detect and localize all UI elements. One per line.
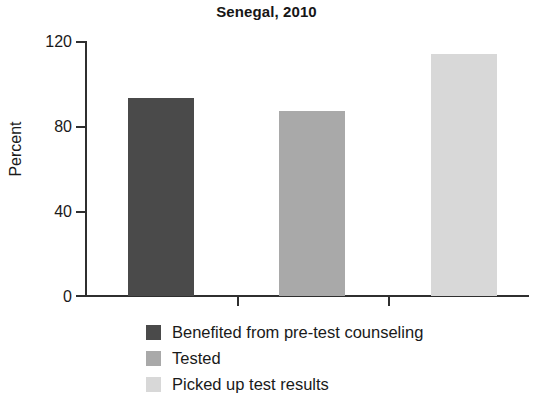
y-tick-label-40: 40 <box>14 203 72 221</box>
legend-item-benefited: Benefited from pre-test counseling <box>146 319 526 345</box>
legend-swatch-benefited <box>146 325 161 340</box>
legend-item-picked-up: Picked up test results <box>146 371 526 397</box>
y-tick-mark-120 <box>76 41 85 43</box>
y-tick-mark-40 <box>76 211 85 213</box>
y-tick-mark-80 <box>76 126 85 128</box>
chart-legend: Benefited from pre-test counseling Teste… <box>146 319 526 397</box>
legend-label-picked-up: Picked up test results <box>172 376 329 393</box>
x-tick-mark-2 <box>388 296 390 306</box>
bar-chart-figure: Senegal, 2010 Percent 120 80 40 0 Benefi… <box>0 0 533 406</box>
plot-area <box>85 41 529 296</box>
bar-benefited-from-pre-test-counseling <box>128 98 194 296</box>
chart-title: Senegal, 2010 <box>0 3 533 20</box>
y-axis-label: Percent <box>7 89 25 209</box>
legend-item-tested: Tested <box>146 345 526 371</box>
bar-picked-up-test-results <box>431 54 497 296</box>
bar-tested <box>279 111 345 296</box>
y-tick-label-80: 80 <box>14 118 72 136</box>
legend-swatch-tested <box>146 351 161 366</box>
legend-swatch-picked-up <box>146 377 161 392</box>
y-tick-mark-0 <box>76 295 85 297</box>
y-tick-label-120: 120 <box>14 33 72 51</box>
y-tick-label-0: 0 <box>14 288 72 306</box>
legend-label-tested: Tested <box>172 350 221 367</box>
legend-label-benefited: Benefited from pre-test counseling <box>172 324 423 341</box>
x-tick-mark-1 <box>237 296 239 306</box>
